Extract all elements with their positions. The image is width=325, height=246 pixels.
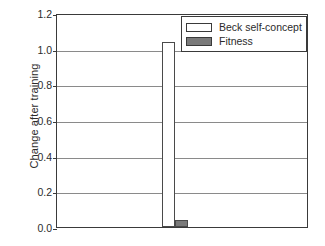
gridline — [57, 158, 307, 159]
legend-swatch-white — [186, 23, 212, 32]
y-axis-tick-mark — [53, 86, 57, 87]
legend-swatch-gray — [186, 37, 212, 46]
y-axis-tick-label: 1.0 — [26, 44, 52, 56]
y-axis-tick-label: 1.2 — [26, 8, 52, 20]
y-axis-tick-label: 0.8 — [26, 79, 52, 91]
legend-item-label: Beck self-concept — [219, 21, 302, 33]
y-axis-tick-mark — [53, 51, 57, 52]
y-axis-tick-label: 0.2 — [26, 186, 52, 198]
gridline — [57, 122, 307, 123]
y-axis-tick-label: 0.4 — [26, 151, 52, 163]
plot-area: Beck self-conceptFitness — [56, 14, 308, 228]
chart-legend: Beck self-conceptFitness — [181, 16, 307, 52]
legend-item-label: Fitness — [219, 35, 253, 47]
bar-fitness — [175, 220, 188, 227]
y-axis-tick-label: 0.6 — [26, 115, 52, 127]
y-axis-tick-mark — [53, 15, 57, 16]
gridline — [57, 86, 307, 87]
legend-item: Fitness — [186, 34, 302, 48]
gridline — [57, 193, 307, 194]
bar-chart-figure: Change after training 1.21.00.80.60.40.2… — [0, 0, 325, 246]
y-axis-tick-mark — [53, 229, 57, 230]
y-axis-tick-mark — [53, 158, 57, 159]
y-axis-tick-mark — [53, 193, 57, 194]
y-axis-tick-labels: 1.21.00.80.60.40.20.0 — [26, 0, 52, 246]
y-axis-tick-label: 0.0 — [26, 222, 52, 234]
bar-beck-self-concept — [162, 42, 175, 227]
y-axis-tick-mark — [53, 122, 57, 123]
legend-item: Beck self-concept — [186, 20, 302, 34]
